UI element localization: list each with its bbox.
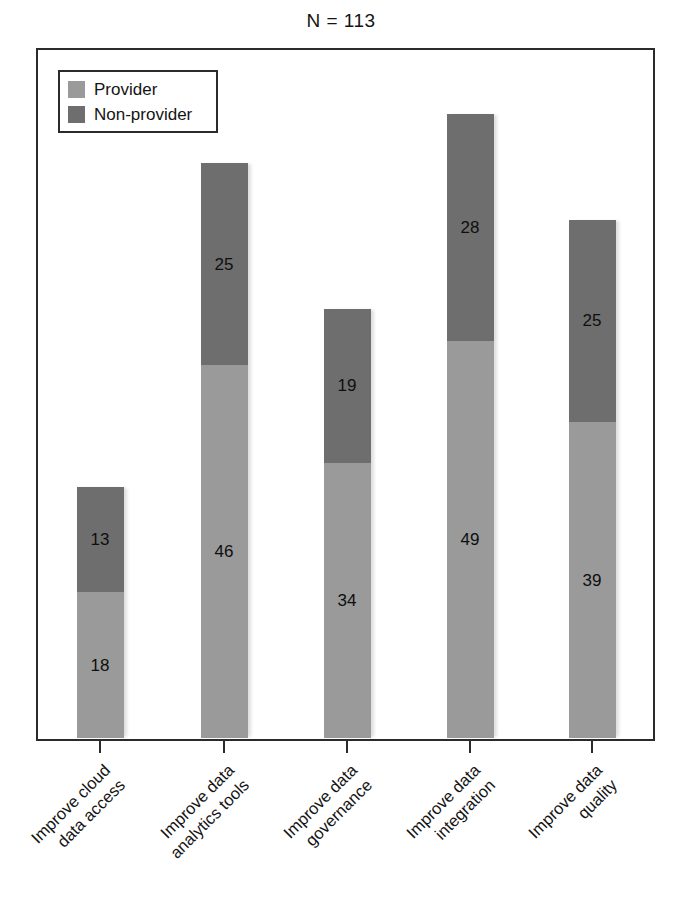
bar-value-label: 18 bbox=[91, 657, 110, 674]
x-axis-tick bbox=[99, 741, 101, 753]
bar-value-label: 19 bbox=[338, 377, 357, 394]
x-axis-category-label: Improve datagovernance bbox=[241, 760, 377, 896]
x-axis-tick bbox=[469, 741, 471, 753]
bar-value-label: 13 bbox=[91, 531, 110, 548]
chart-legend: Provider Non-provider bbox=[58, 70, 218, 133]
chart-title: N = 113 bbox=[0, 10, 682, 32]
legend-item-non-provider: Non-provider bbox=[68, 102, 216, 127]
x-axis-tick bbox=[591, 741, 593, 753]
x-axis-category-label: Improve dataquality bbox=[486, 760, 622, 896]
bar-segment-non-provider: 19 bbox=[324, 309, 371, 463]
bar-value-label: 25 bbox=[583, 312, 602, 329]
bar-value-label: 39 bbox=[583, 572, 602, 589]
bar-segment-provider: 34 bbox=[324, 463, 371, 738]
legend-label-non-provider: Non-provider bbox=[94, 106, 192, 123]
bar-segment-non-provider: 25 bbox=[569, 220, 616, 423]
bar-stack: 2849 bbox=[447, 114, 494, 738]
x-axis-category-label: Improve dataanalytics tools bbox=[118, 760, 254, 896]
bar-stack: 2546 bbox=[201, 163, 248, 738]
bar-segment-provider: 39 bbox=[569, 422, 616, 738]
bar-segment-non-provider: 13 bbox=[77, 487, 124, 592]
legend-swatch-non-provider-icon bbox=[68, 106, 85, 123]
bar-stack: 2539 bbox=[569, 220, 616, 738]
bar-stack: 1934 bbox=[324, 309, 371, 738]
stacked-bar-chart: N = 113 13182546193428492539 Provider No… bbox=[0, 0, 682, 900]
x-axis-tick bbox=[346, 741, 348, 753]
bar-segment-provider: 18 bbox=[77, 592, 124, 738]
bar-stack: 1318 bbox=[77, 487, 124, 738]
bar-value-label: 34 bbox=[338, 592, 357, 609]
bar-value-label: 28 bbox=[461, 219, 480, 236]
bar-value-label: 25 bbox=[215, 256, 234, 273]
x-axis-category-label: Improve dataintegration bbox=[364, 760, 500, 896]
bar-value-label: 46 bbox=[215, 543, 234, 560]
bar-segment-provider: 46 bbox=[201, 365, 248, 738]
x-axis-tick bbox=[223, 741, 225, 753]
x-axis-category-label: Improve clouddata access bbox=[0, 760, 130, 896]
bar-segment-provider: 49 bbox=[447, 341, 494, 738]
bar-value-label: 49 bbox=[461, 531, 480, 548]
legend-swatch-provider-icon bbox=[68, 81, 85, 98]
legend-item-provider: Provider bbox=[68, 77, 216, 102]
legend-label-provider: Provider bbox=[94, 81, 157, 98]
bar-segment-non-provider: 25 bbox=[201, 163, 248, 366]
bar-segment-non-provider: 28 bbox=[447, 114, 494, 341]
plot-area: 13182546193428492539 bbox=[36, 48, 655, 741]
